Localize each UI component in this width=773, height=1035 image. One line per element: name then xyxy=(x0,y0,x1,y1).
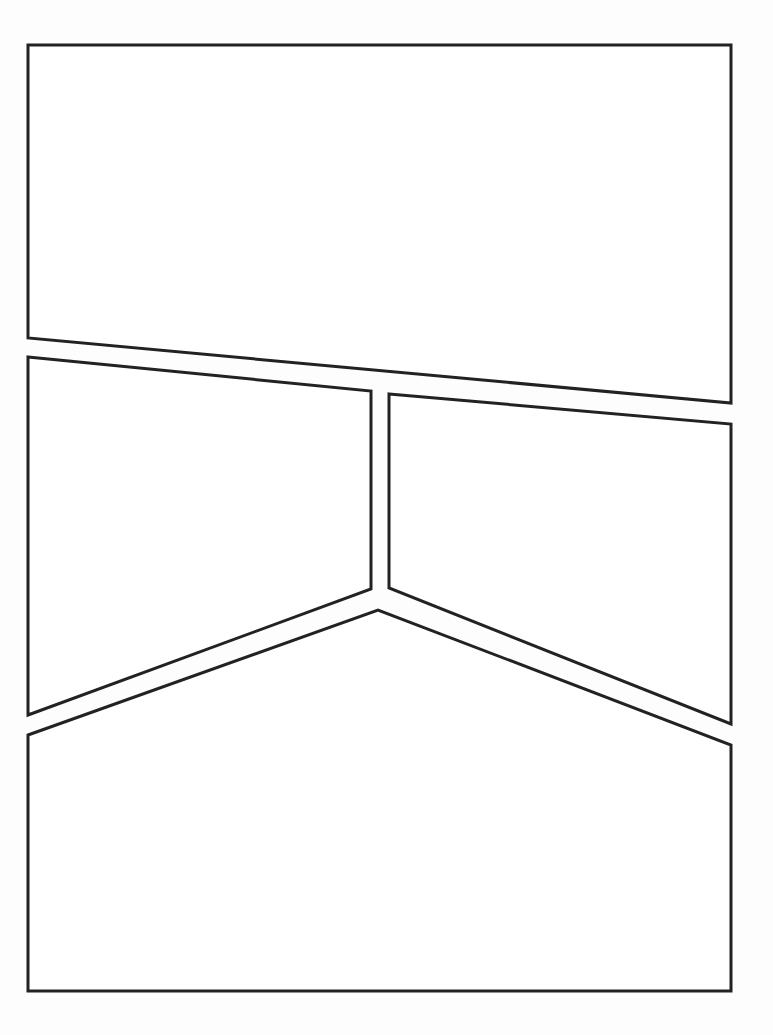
comic-page-template xyxy=(0,0,773,1035)
panel-layout xyxy=(0,0,773,1035)
panel-top xyxy=(28,45,731,403)
